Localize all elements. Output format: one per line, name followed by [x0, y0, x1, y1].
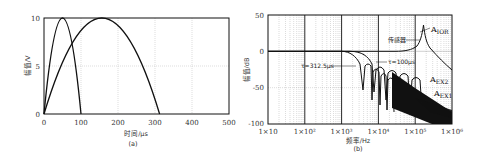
y-axis-label: 幅值/dB: [242, 58, 251, 83]
annotation-tau-100: τ=100μs: [388, 58, 415, 66]
x-tick: 1×10²: [294, 128, 316, 136]
annotation-a-ex2: AEX2: [429, 75, 448, 85]
x-tick: 0: [42, 119, 46, 127]
x-tick: 1×10³: [331, 128, 353, 136]
y-tick: -50: [253, 84, 264, 92]
annotation-a-ior: AIOR: [430, 25, 449, 35]
panel-caption: (b): [353, 145, 362, 153]
x-tick: 1×10⁶: [441, 128, 463, 136]
panel-b: 50 0 -50 -100 1×10 1×10² 1×10³ 1×10⁴ 1×1…: [242, 12, 463, 153]
y-tick: -100: [248, 120, 264, 128]
figure: 10 5 0 0 100 200 300 400 500 时间/μs (a) 幅…: [0, 0, 484, 159]
y-tick: 0: [36, 111, 40, 119]
y-axis-label: 幅值/V: [23, 55, 32, 76]
y-tick: 5: [36, 63, 40, 71]
x-axis-label: 时间/μs: [124, 129, 148, 138]
panel-caption: (a): [128, 140, 137, 148]
curve-tau-312: [44, 18, 160, 114]
x-axis-label: 频率/Hz: [346, 136, 371, 145]
leader-line: [420, 28, 430, 32]
annotation-tau-312: τ=312.5μs: [301, 62, 334, 70]
x-tick: 200: [111, 119, 124, 127]
y-tick: 0: [260, 48, 264, 56]
x-tick: 400: [185, 119, 198, 127]
x-tick: 100: [74, 119, 87, 127]
x-tick: 300: [148, 119, 161, 127]
y-tick: 50: [255, 12, 264, 20]
x-tick: 1×10: [258, 128, 277, 136]
panel-a-grid: [44, 18, 229, 114]
y-tick: 10: [31, 15, 40, 23]
x-tick: 1×10⁵: [404, 128, 426, 136]
annotation-a-ex1: AEX1: [433, 89, 452, 99]
annotation-sensor: 传感器: [388, 36, 406, 44]
x-tick: 1×10⁴: [367, 128, 389, 136]
x-tick: 500: [222, 119, 235, 127]
panel-a: 10 5 0 0 100 200 300 400 500 时间/μs (a) 幅…: [23, 15, 236, 148]
